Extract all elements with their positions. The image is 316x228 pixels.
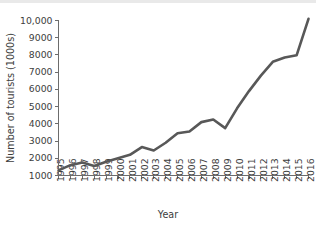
x-tick-label: 2004 <box>162 158 173 182</box>
y-axis-title: Number of tourists (1000s) <box>5 33 16 163</box>
x-tick-label: 2006 <box>186 158 197 182</box>
x-tick-label: 1996 <box>67 158 78 182</box>
x-axis-title: Year <box>157 209 178 220</box>
x-tick-label: 2003 <box>150 158 161 182</box>
y-tick-label: 10,000 <box>20 15 53 26</box>
x-tick-label: 2007 <box>198 158 209 182</box>
x-tick-label: 2002 <box>139 158 150 182</box>
y-tick-label: 1000 <box>29 170 53 181</box>
x-tick-label: 2000 <box>115 158 126 182</box>
y-tick-label: 7000 <box>29 66 53 77</box>
x-tick-label: 2008 <box>210 158 221 182</box>
x-tick-label: 1998 <box>91 158 102 182</box>
y-tick-label: 8000 <box>29 49 53 60</box>
x-tick-label: 2015 <box>293 158 304 182</box>
y-tick-label: 6000 <box>29 83 53 94</box>
chart-figure: 10002000300040005000600070008000900010,0… <box>0 0 316 228</box>
line-chart-canvas: 10002000300040005000600070008000900010,0… <box>0 0 316 228</box>
x-tick-label: 2011 <box>246 158 257 182</box>
tourists-line-series <box>59 19 309 171</box>
y-tick-label: 3000 <box>29 135 53 146</box>
x-tick-label: 2013 <box>269 158 280 182</box>
x-tick-label: 2001 <box>127 158 138 182</box>
y-tick-label: 5000 <box>29 101 53 112</box>
y-tick-label: 2000 <box>29 152 53 163</box>
x-tick-label: 2005 <box>174 158 185 182</box>
x-tick-label: 2016 <box>305 158 316 182</box>
y-axis-tick-labels: 10002000300040005000600070008000900010,0… <box>20 15 53 181</box>
y-tick-label: 4000 <box>29 118 53 129</box>
x-tick-label: 2009 <box>222 158 233 182</box>
x-tick-label: 2010 <box>234 158 245 182</box>
x-tick-label: 2012 <box>258 158 269 182</box>
x-tick-label: 2014 <box>281 158 292 182</box>
x-axis-tick-labels: 1995199619971998199920002001200220032004… <box>55 158 316 182</box>
y-tick-label: 9000 <box>29 32 53 43</box>
